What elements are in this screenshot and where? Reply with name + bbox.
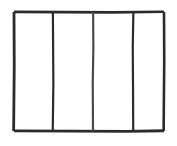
frame-bottom-edge: [14, 131, 164, 132]
figure-canvas: four-panel rectangular frame Hand-drawn …: [0, 0, 177, 146]
panel-2: [55, 14, 92, 130]
frame-right-edge: [164, 12, 165, 131]
panel-4: [135, 14, 163, 130]
frame-left-edge: [14, 12, 15, 131]
divider-2: [93, 12, 94, 131]
panel-1: [16, 14, 52, 130]
frame-top-edge: [14, 12, 164, 13]
panel-hit-areas: [16, 14, 163, 130]
panel-3: [95, 14, 132, 130]
four-panel-frame-drawing: [0, 0, 177, 146]
divider-1: [53, 12, 54, 131]
divider-3: [133, 12, 134, 131]
